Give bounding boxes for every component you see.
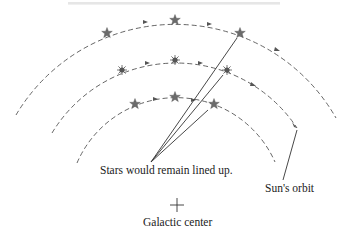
arrow-icon [198,61,203,65]
arrow-icon [207,22,212,26]
sun-orbit-label: Sun's orbit [265,183,314,195]
orbit-diagram [0,0,350,238]
galactic-center-label: Galactic center [143,217,212,229]
sun-orbit-pointer [283,130,297,180]
arrow-icon [153,97,158,101]
inner-orbit-arc [77,98,275,163]
star-icon [170,92,181,102]
sightline-outer [151,38,237,162]
arrow-icon [274,47,280,51]
sunburst-star-icon [170,55,180,65]
arrow-icon [250,82,256,86]
star-icon [170,15,181,25]
arrow-icon [145,61,150,65]
sunburst-star-icon [117,65,127,75]
stars-lined-up-label: Stars would remain lined up. [100,165,233,177]
orbit-direction-arrows [143,20,297,128]
sightline-middle [151,75,223,162]
sightlines [151,38,237,162]
sightline-inner [151,110,208,162]
star-icon [102,28,113,38]
arrow-icon [143,20,148,24]
star-icon [209,99,220,109]
outer-orbit-arc [16,24,336,118]
galactic-center-plus-icon [170,198,184,212]
sunburst-star-icon [222,65,232,75]
star-icon [130,99,141,109]
